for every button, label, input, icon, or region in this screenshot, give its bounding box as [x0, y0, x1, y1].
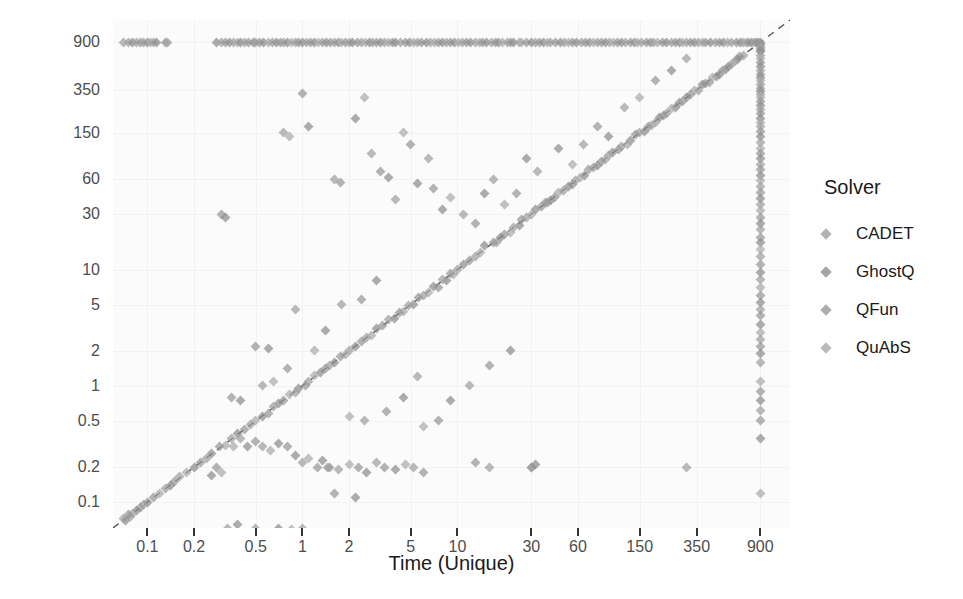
gridline-vertical [349, 20, 350, 528]
y-tick-label: 30 [30, 205, 100, 223]
data-point [445, 395, 455, 405]
y-tick-label: 0.1 [30, 493, 100, 511]
y-tick-label: 150 [30, 124, 100, 142]
gridline-vertical [256, 20, 257, 528]
data-point [350, 113, 360, 123]
gridline-horizontal [113, 386, 790, 387]
x-tick-mark [410, 528, 412, 536]
data-point [268, 376, 278, 386]
diamond-marker-icon [820, 266, 831, 277]
data-point [382, 407, 392, 417]
legend-key-icon [812, 230, 840, 238]
legend-key-icon [812, 344, 840, 352]
data-point [635, 93, 645, 103]
data-point [362, 468, 372, 478]
gridline-horizontal [113, 305, 790, 306]
diamond-marker-icon [820, 228, 831, 239]
y-tick-label: 10 [30, 261, 100, 279]
gridline-vertical [411, 20, 412, 528]
x-tick-mark [696, 528, 698, 536]
legend-item-ghostq[interactable]: GhostQ [812, 253, 952, 291]
y-tick-label: 60 [30, 170, 100, 188]
data-point [755, 434, 765, 444]
legend-item-label: CADET [856, 224, 914, 244]
data-point [367, 148, 377, 158]
legend-title: Solver [824, 176, 952, 199]
data-point [592, 122, 602, 132]
gridline-vertical [194, 20, 195, 528]
data-point [755, 357, 765, 367]
data-point [236, 395, 246, 405]
y-tick-label: 350 [30, 81, 100, 99]
diamond-marker-icon [820, 342, 831, 353]
data-point [337, 300, 347, 310]
data-point [484, 360, 494, 370]
legend-item-qfun[interactable]: QFun [812, 291, 952, 329]
x-tick-mark [456, 528, 458, 536]
gridline-horizontal [113, 351, 790, 352]
data-point [282, 364, 292, 374]
x-tick-mark [255, 528, 257, 536]
diamond-marker-icon [820, 304, 831, 315]
data-point [384, 172, 394, 182]
data-point [356, 295, 366, 305]
data-point [465, 381, 475, 391]
data-point [755, 488, 765, 498]
scatter-plot-figure: Time (Default) 9003501506030105210.50.20… [0, 0, 963, 599]
gridline-horizontal [113, 502, 790, 503]
data-point [418, 468, 428, 478]
data-point [499, 200, 509, 210]
data-point [229, 442, 239, 452]
data-point [376, 166, 386, 176]
data-point [755, 376, 765, 386]
legend-item-cadet[interactable]: CADET [812, 215, 952, 253]
data-point [488, 174, 498, 184]
data-point [310, 346, 320, 356]
data-point [242, 442, 252, 452]
data-point [470, 457, 480, 467]
data-point [511, 189, 521, 199]
data-point [533, 166, 543, 176]
legend-key-icon [812, 306, 840, 314]
data-point [755, 405, 765, 415]
x-tick-mark [146, 528, 148, 536]
legend-item-label: GhostQ [856, 262, 915, 282]
data-point [755, 395, 765, 405]
data-point [480, 189, 490, 199]
data-point [651, 76, 661, 86]
y-axis-ticks: 9003501506030105210.50.20.1 [28, 20, 100, 528]
legend-item-quabs[interactable]: QuAbS [812, 329, 952, 367]
y-tick-label: 900 [30, 33, 100, 51]
data-point [445, 192, 455, 202]
x-axis-title: Time (Unique) [113, 552, 790, 575]
x-tick-mark [577, 528, 579, 536]
y-tick-label: 5 [30, 296, 100, 314]
data-point [257, 381, 267, 391]
data-point [620, 102, 630, 112]
data-point [350, 492, 360, 502]
data-point [399, 128, 409, 138]
x-tick-mark [639, 528, 641, 536]
x-tick-mark [348, 528, 350, 536]
x-tick-mark [530, 528, 532, 536]
data-point [290, 305, 300, 315]
gridline-horizontal [113, 214, 790, 215]
data-point [433, 416, 443, 426]
gridline-horizontal [113, 421, 790, 422]
gridline-vertical [697, 20, 698, 528]
gridline-horizontal [113, 179, 790, 180]
data-point [251, 341, 261, 351]
y-tick-label: 0.2 [30, 458, 100, 476]
data-point [755, 416, 765, 426]
data-point [391, 195, 401, 205]
data-point [554, 144, 564, 154]
data-point [567, 160, 577, 170]
plot-panel [113, 20, 790, 528]
data-point [418, 421, 428, 431]
gridline-horizontal [113, 133, 790, 134]
legend: Solver CADETGhostQQFunQuAbS [812, 176, 952, 367]
data-point [423, 154, 433, 164]
data-point [522, 154, 532, 164]
gridline-vertical [578, 20, 579, 528]
gridline-vertical [531, 20, 532, 528]
